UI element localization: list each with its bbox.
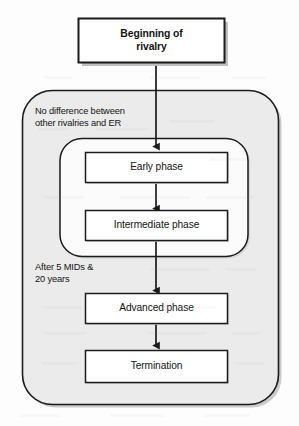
- edge-label-no-difference: No difference between other rivalries an…: [35, 106, 160, 129]
- edge-label-after-mids: After 5 MIDs & 20 years: [35, 262, 145, 285]
- node-early-box: [86, 153, 228, 183]
- node-advanced-box: [86, 294, 228, 324]
- flowchart-canvas: Beginning of rivalry Early phase Interme…: [0, 0, 299, 426]
- node-intermediate-box: [86, 211, 228, 241]
- node-start-box: [79, 19, 225, 63]
- flowchart-graphics: [0, 0, 299, 426]
- node-termination-box: [86, 351, 228, 383]
